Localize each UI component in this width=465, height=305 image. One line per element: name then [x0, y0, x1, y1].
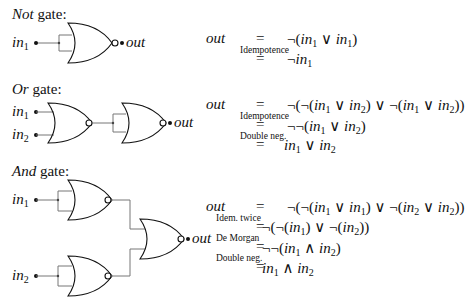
or-gate-title: Or gate:	[12, 81, 62, 98]
not-eq-note-2: Idempotence	[240, 45, 289, 55]
or-output-label: out	[174, 114, 193, 131]
not-circuit	[34, 23, 124, 63]
or-eq-lhs-1: out	[206, 96, 225, 113]
or-eq-rhs-3: in1 ∨ in2	[284, 136, 336, 155]
and-output-label: out	[192, 230, 211, 247]
not-eq-rhs-1: ¬(in1 ∨ in1)	[287, 30, 357, 49]
and-input-1-label: in1	[12, 191, 29, 209]
not-eq-rel-2: =	[256, 50, 264, 67]
or-eq-rhs-1: ¬(¬(in1 ∨ in2) ∨ ¬(in1 ∨ in2))	[287, 96, 465, 115]
not-output-label: out	[126, 34, 145, 51]
not-eq-line-1: out	[206, 30, 225, 47]
or-eq-note-2: Idempotence	[240, 111, 289, 121]
not-gate-title: Not gate:	[12, 6, 67, 23]
and-eq-rhs-4: in1 ∧ in2	[262, 259, 314, 278]
not-input-1-label: in1	[12, 34, 29, 52]
and-gate-title: And gate:	[12, 163, 69, 180]
or-input-1-label: in1	[12, 103, 29, 121]
or-circuit	[34, 103, 172, 143]
and-input-2-label: in2	[12, 267, 29, 285]
and-eq-rhs-1: ¬(¬(in1 ∨ in1) ∨ ¬(in2 ∨ in2))	[287, 198, 465, 217]
or-input-2-label: in2	[12, 126, 29, 144]
or-eq-rel-3: =	[256, 136, 264, 153]
and-eq-note-2: Idem. twice	[216, 213, 261, 223]
and-eq-rhs-2: ¬(¬(in1) ∨ ¬(in2))	[262, 218, 369, 237]
not-eq-rhs-2: ¬in1	[287, 51, 312, 69]
and-circuit	[34, 180, 190, 296]
or-eq-rhs-2: ¬¬(in1 ∨ in2)	[287, 117, 366, 136]
and-eq-note-3: De Morgan	[216, 233, 259, 243]
and-eq-rhs-3: ¬¬(in1 ∧ in2)	[262, 239, 341, 258]
